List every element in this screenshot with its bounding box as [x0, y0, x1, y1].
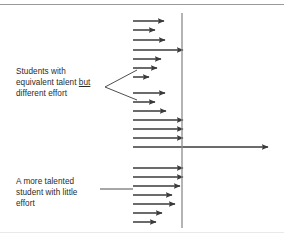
annotation-line-1: A more talented — [16, 176, 77, 187]
leader-bracket-to-effort-groups — [105, 70, 137, 87]
leader-bracket-to-effort-groups — [105, 87, 137, 100]
annotation-line-3: different effort — [16, 88, 90, 99]
arrow-group-equivalent-talent-different-effort-upper — [133, 21, 183, 77]
arrow-group-container — [133, 21, 268, 222]
arrow-group-more-talented-little-effort — [133, 168, 183, 222]
annotation-line-1: Students with — [16, 66, 90, 77]
annotation-more-talented-little-effort: A more talented student with little effo… — [16, 176, 77, 210]
annotation-line-2: equivalent talent but — [16, 77, 90, 88]
arrow-group-equivalent-talent-different-effort-lower — [133, 93, 183, 138]
annotation-equivalent-talent-different-effort: Students with equivalent talent but diff… — [16, 66, 90, 100]
annotation-line-2-text: equivalent talent — [16, 78, 79, 87]
bottom-divider-rule — [0, 232, 284, 233]
annotation-line-3: effort — [16, 198, 77, 209]
annotation-line-2: student with little — [16, 187, 77, 198]
leader-lines — [100, 70, 137, 189]
effort-talent-diagram: Students with equivalent talent but diff… — [0, 0, 284, 237]
annotation-emphasis-but: but — [79, 78, 91, 87]
